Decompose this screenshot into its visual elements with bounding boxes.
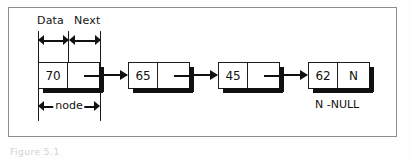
node-next-cell <box>158 63 189 88</box>
node-dimension-label: node <box>53 99 84 112</box>
arrowhead-right-icon <box>95 35 101 45</box>
node-data-cell: 45 <box>219 63 248 88</box>
node-data-cell: 65 <box>129 63 158 88</box>
node-shadow <box>99 67 104 92</box>
link-arrow <box>281 74 307 76</box>
node-data-cell: 70 <box>39 63 68 88</box>
list-node-tail: 62 N <box>308 62 370 89</box>
column-label-data: Data <box>37 15 64 27</box>
link-arrow <box>101 74 127 76</box>
dimension-line <box>73 40 97 42</box>
link-arrow <box>191 74 217 76</box>
dimension-line <box>42 40 65 42</box>
dimension-arrow-node: node <box>38 100 100 113</box>
arrowhead-right-icon <box>94 101 100 111</box>
arrowhead-right-icon <box>300 70 308 80</box>
dimension-arrow-data <box>38 35 69 46</box>
list-node: 45 <box>218 62 280 89</box>
node-data-cell: 62 <box>309 63 338 88</box>
arrowhead-right-icon <box>210 70 218 80</box>
node-next-cell <box>248 63 279 88</box>
node-shadow <box>369 67 374 92</box>
column-label-next: Next <box>74 15 100 27</box>
dimension-arrow-next <box>69 35 101 46</box>
node-shadow <box>189 67 194 92</box>
node-next-cell: N <box>338 63 369 88</box>
node-shadow <box>279 67 284 92</box>
arrowhead-right-icon <box>120 70 128 80</box>
linked-list-figure: Data Next 70 node 65 <box>0 0 412 160</box>
node-next-cell <box>68 63 99 88</box>
figure-caption: Figure 5.1 <box>10 147 60 157</box>
null-legend: N -NULL <box>315 99 359 111</box>
list-node: 65 <box>128 62 190 89</box>
list-node: 70 <box>38 62 100 89</box>
